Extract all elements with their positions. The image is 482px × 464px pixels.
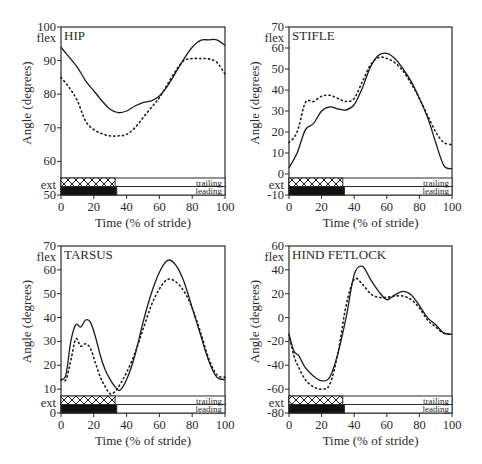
y-tick-label: 60 bbox=[44, 263, 57, 277]
y-tick-label: -40 bbox=[267, 358, 284, 372]
plot-frame bbox=[289, 27, 452, 195]
plot-frame bbox=[289, 246, 452, 413]
x-axis-title: Time (% of stride) bbox=[95, 433, 191, 448]
plot-frame bbox=[61, 27, 225, 195]
x-tick-label: 60 bbox=[153, 418, 166, 432]
y-axis-title: Angle (degrees) bbox=[247, 280, 262, 363]
ext-label: ext bbox=[41, 178, 57, 192]
leading-label: leading bbox=[423, 186, 450, 196]
x-tick-label: 100 bbox=[443, 418, 462, 432]
panel-hip: trailingleading5060708090100flexext02040… bbox=[19, 20, 234, 230]
x-tick-label: 20 bbox=[88, 200, 101, 214]
leading-label: leading bbox=[423, 404, 450, 414]
x-axis-title: Time (% of stride) bbox=[323, 433, 419, 448]
y-tick-label: 30 bbox=[272, 104, 285, 118]
x-tick-label: 80 bbox=[413, 418, 426, 432]
y-tick-label: 50 bbox=[272, 62, 285, 76]
y-tick-label: 40 bbox=[44, 311, 57, 325]
trailing-stance-hatched bbox=[61, 178, 115, 187]
y-axis-title: Angle (degrees) bbox=[247, 61, 262, 144]
flex-label: flex bbox=[265, 31, 285, 45]
leading-label: leading bbox=[196, 186, 223, 196]
panel-title: STIFLE bbox=[292, 28, 335, 43]
panel-hind-fetlock: trailingleading-80-60-40-200204060flexex… bbox=[247, 239, 461, 448]
y-tick-label: 30 bbox=[44, 334, 57, 348]
x-axis-title: Time (% of stride) bbox=[95, 215, 191, 230]
x-tick-label: 80 bbox=[413, 200, 426, 214]
y-tick-label: -20 bbox=[267, 334, 284, 348]
panel-tarsus: trailingleading010203040506070flexext020… bbox=[19, 239, 234, 448]
x-tick-label: 0 bbox=[286, 418, 292, 432]
x-tick-label: 100 bbox=[443, 200, 462, 214]
x-tick-label: 40 bbox=[348, 200, 361, 214]
y-tick-label: 20 bbox=[44, 358, 57, 372]
trailing-stance-hatched bbox=[61, 396, 115, 405]
flex-label: flex bbox=[37, 31, 57, 45]
flex-label: flex bbox=[37, 250, 57, 264]
x-tick-label: 100 bbox=[216, 200, 235, 214]
panel-stifle: trailingleading-10010203040506070flexext… bbox=[247, 20, 461, 230]
ext-label: ext bbox=[269, 396, 285, 410]
y-tick-label: 90 bbox=[44, 54, 57, 68]
x-axis-title: Time (% of stride) bbox=[323, 215, 419, 230]
leading-stance-solid bbox=[61, 405, 117, 414]
y-tick-label: 70 bbox=[44, 121, 57, 135]
y-tick-label: 40 bbox=[272, 83, 285, 97]
y-tick-label: 10 bbox=[44, 382, 57, 396]
y-tick-label: 20 bbox=[272, 125, 285, 139]
y-tick-label: 50 bbox=[44, 287, 57, 301]
leading-stance-solid bbox=[289, 405, 344, 414]
x-tick-label: 40 bbox=[120, 200, 133, 214]
y-tick-label: 40 bbox=[272, 263, 285, 277]
y-tick-label: 0 bbox=[278, 311, 284, 325]
x-tick-label: 100 bbox=[216, 418, 235, 432]
x-tick-label: 40 bbox=[120, 418, 133, 432]
x-tick-label: 0 bbox=[286, 200, 292, 214]
y-tick-label: 60 bbox=[44, 154, 57, 168]
panel-title: HIP bbox=[64, 28, 85, 43]
trailing-stance-hatched bbox=[289, 178, 343, 187]
x-tick-label: 0 bbox=[58, 200, 64, 214]
y-tick-label: 80 bbox=[44, 87, 57, 101]
x-tick-label: 60 bbox=[381, 418, 394, 432]
panel-title: TARSUS bbox=[64, 247, 113, 262]
y-tick-label: 20 bbox=[272, 287, 285, 301]
x-tick-label: 0 bbox=[58, 418, 64, 432]
gait-angle-figure: trailingleading5060708090100flexext02040… bbox=[0, 0, 482, 464]
ext-label: ext bbox=[41, 396, 57, 410]
y-tick-label: -60 bbox=[267, 382, 284, 396]
x-tick-label: 20 bbox=[315, 200, 328, 214]
x-tick-label: 40 bbox=[348, 418, 361, 432]
x-tick-label: 60 bbox=[153, 200, 166, 214]
x-tick-label: 80 bbox=[186, 418, 199, 432]
x-tick-label: 80 bbox=[186, 200, 199, 214]
x-tick-label: 60 bbox=[381, 200, 394, 214]
ext-label: ext bbox=[269, 178, 285, 192]
trailing-stance-hatched bbox=[289, 396, 343, 405]
x-tick-label: 20 bbox=[88, 418, 101, 432]
leading-stance-solid bbox=[61, 187, 117, 196]
y-tick-label: 10 bbox=[272, 146, 285, 160]
leading-label: leading bbox=[196, 404, 223, 414]
x-tick-label: 20 bbox=[315, 418, 328, 432]
y-axis-title: Angle (degrees) bbox=[19, 61, 34, 144]
flex-label: flex bbox=[265, 250, 285, 264]
y-axis-title: Angle (degrees) bbox=[19, 280, 34, 363]
panel-title: HIND FETLOCK bbox=[292, 247, 387, 262]
leading-stance-solid bbox=[289, 187, 344, 196]
